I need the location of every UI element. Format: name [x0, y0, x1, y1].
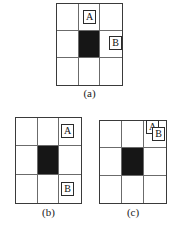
grid-c-cell-r1c2 [122, 121, 144, 148]
grid-c-cell-r3c2 [122, 176, 144, 203]
panel-b-tag-b: B [61, 182, 74, 196]
grid-a-cell-r1c3 [100, 4, 122, 31]
grid-b-cell-r3c2 [38, 175, 60, 203]
grid-a-cell-r1c1 [57, 4, 79, 31]
panel-a-tag-b: B [109, 36, 122, 50]
panel-c-caption: (c) [99, 206, 167, 218]
grid-b-cell-r3c1 [16, 175, 38, 203]
figure-canvas: A B (a) A B (b) [0, 0, 180, 229]
grid-a-cell-r3c2 [79, 58, 101, 85]
grid-a-cell-r3c3 [100, 58, 122, 85]
grid-a-cell-r2c1 [57, 31, 79, 58]
grid-c-cell-r1c1 [100, 121, 122, 148]
grid-c-cell-r2c3 [144, 148, 166, 175]
panel-a-tag-a: A [83, 10, 96, 24]
grid-b-cell-r1c2 [38, 118, 60, 146]
grid-b-cell-r2c3 [59, 146, 81, 174]
grid-c-cell-r3c3 [144, 176, 166, 203]
panel-b-tag-a: A [61, 124, 74, 138]
grid-b-cell-r2c2-filled [38, 146, 60, 174]
grid-a-cell-r2c2-filled [79, 31, 101, 58]
grid-a-cell-r3c1 [57, 58, 79, 85]
panel-b-caption: (b) [15, 206, 82, 218]
grid-b-cell-r1c1 [16, 118, 38, 146]
panel-c-tag-b: B [152, 127, 165, 141]
grid-c-cell-r2c1 [100, 148, 122, 175]
grid-c-cell-r2c2-filled [122, 148, 144, 175]
grid-c-cell-r3c1 [100, 176, 122, 203]
grid-b-cell-r2c1 [16, 146, 38, 174]
panel-a-caption: (a) [56, 87, 123, 99]
